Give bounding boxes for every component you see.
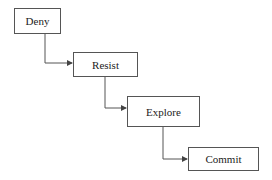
node-label: Commit xyxy=(205,153,241,165)
node-resist: Resist xyxy=(73,52,138,77)
edge-explore-commit xyxy=(163,126,187,159)
edge-resist-explore xyxy=(105,76,126,108)
node-commit: Commit xyxy=(188,147,259,171)
node-label: Explore xyxy=(146,106,181,118)
node-label: Resist xyxy=(92,59,119,71)
edge-deny-resist xyxy=(45,33,72,63)
node-label: Deny xyxy=(26,15,50,27)
node-deny: Deny xyxy=(14,8,61,34)
node-explore: Explore xyxy=(127,96,200,127)
